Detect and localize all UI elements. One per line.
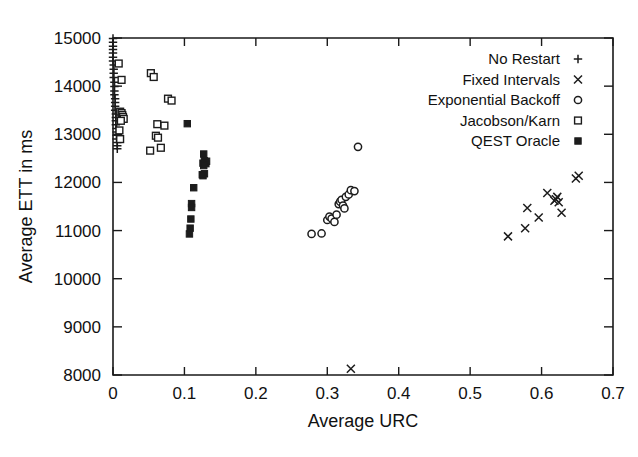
data-point-square-open [117,136,124,143]
data-point-square-filled [201,162,207,168]
y-tick-label: 14000 [54,77,101,96]
plot-canvas: 80009000100001100012000130001400015000 0… [0,0,638,457]
x-tick-label: 0.1 [173,384,197,403]
legend-marker-square-filled [575,138,581,144]
data-point-circle [341,205,348,212]
legend-label-fixed-intervals: Fixed Intervals [462,71,560,88]
x-tick-label: 0.2 [244,384,268,403]
x-tick-label: 0.3 [315,384,339,403]
data-point-square-filled [575,138,581,144]
x-tick-label: 0.5 [458,384,482,403]
y-tick-label: 13000 [54,125,101,144]
data-point-square-open [118,76,125,83]
data-point-square-open [168,97,175,104]
data-point-square-open [117,117,124,124]
x-tick-label: 0.4 [387,384,411,403]
y-tick-label: 8000 [63,366,101,385]
data-point-square-filled [184,120,190,126]
x-tick-label: 0.7 [601,384,625,403]
x-tick-label: 0.6 [530,384,554,403]
data-point-square-open [116,127,123,134]
data-point-square-filled [188,216,194,222]
data-point-square-filled [188,204,194,210]
data-point-circle [354,143,361,150]
data-point-circle [574,96,581,103]
data-point-square-open [154,121,161,128]
data-point-square-filled [201,151,207,157]
y-axis-label: Average ETT in ms [16,130,36,283]
data-point-square-open [157,144,164,151]
data-point-square-filled [186,231,192,237]
data-point-square-open [155,134,162,141]
data-point-circle [351,187,358,194]
legend-marker-square-open [575,117,582,124]
data-point-square-open [115,60,122,67]
y-tick-label: 11000 [55,222,101,241]
legend-label-no-restart: No Restart [488,50,561,67]
data-point-circle [331,218,338,225]
legend-label-exponential-backoff: Exponential Backoff [428,91,561,108]
data-point-square-open [575,117,582,124]
data-point-circle [308,230,315,237]
y-tick-label: 15000 [54,29,101,48]
data-point-square-filled [191,185,197,191]
data-point-circle [318,230,325,237]
legend-label-qest-oracle: QEST Oracle [471,132,560,149]
y-tick-label: 9000 [63,318,101,337]
legend-marker-circle [574,96,581,103]
y-tick-label: 10000 [54,270,101,289]
scatter-plot-figure: 80009000100001100012000130001400015000 0… [0,0,638,457]
data-point-square-open [150,74,157,81]
x-tick-label: 0 [108,384,117,403]
data-point-circle [333,211,340,218]
data-point-square-open [147,147,154,154]
data-point-square-filled [199,172,205,178]
legend-label-jacobson-karn: Jacobson/Karn [460,112,560,129]
data-point-square-open [161,122,168,129]
y-tick-label: 12000 [54,173,101,192]
x-axis-label: Average URC [308,411,419,431]
